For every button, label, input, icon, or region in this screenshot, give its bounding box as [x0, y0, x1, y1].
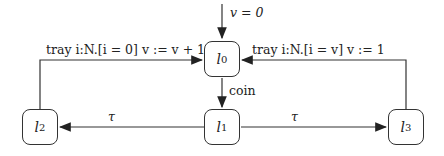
edge-l3-l0 [242, 60, 406, 109]
edge-l2-l0 [40, 60, 202, 109]
location-l1: l1 [204, 109, 240, 145]
location-l0: l0 [204, 41, 240, 77]
label-tau-right: τ [291, 109, 298, 124]
location-l2: l2 [22, 109, 58, 145]
label-tau-left: τ [108, 109, 115, 124]
label-init: v = 0 [230, 5, 263, 20]
location-l3: l3 [388, 109, 424, 145]
label-tray-right: tray i:N.[i = v] v := 1 [252, 42, 385, 57]
label-coin: coin [229, 83, 256, 98]
label-tray-left: tray i:N.[i = 0] v := v + 1 [46, 42, 205, 57]
